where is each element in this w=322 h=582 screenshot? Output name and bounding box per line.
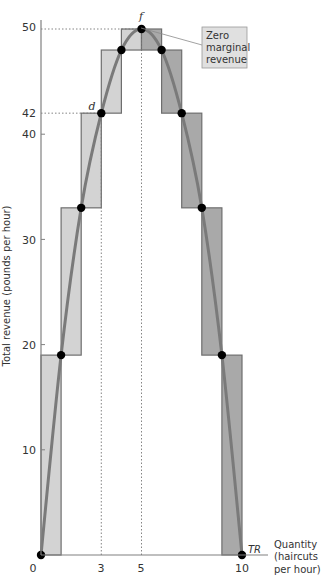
y-tick-50: 50 [22,21,36,34]
x-axis-title-line3: per hour) [274,564,321,575]
y-axis-title: Total revenue (pounds per hour) [1,205,12,367]
data-point [218,351,226,359]
data-point [157,46,165,54]
data-point [198,204,206,212]
data-point [178,109,186,117]
tr-curve-label: TR [248,544,261,555]
y-tick-20: 20 [22,339,36,352]
x-axis-title-line1: Quantity [274,539,317,550]
data-point [77,204,85,212]
callout-line3: revenue [206,54,247,65]
y-tick-42: 42 [22,107,36,120]
y-tick-40: 40 [22,128,36,141]
y-tick-30: 30 [22,234,36,247]
x-tick-0: 0 [30,562,37,575]
x-axis-title-line2: (haircuts [274,551,318,562]
x-tick-10: 10 [235,562,249,575]
x-tick-3: 3 [98,562,105,575]
x-tick-5: 5 [138,562,145,575]
total-revenue-chart: 10 20 30 40 42 50 0 3 5 10 Total revenue… [0,0,322,582]
data-point [97,109,105,117]
callout-line1: Zero [206,30,229,41]
y-tick-10: 10 [22,444,36,457]
data-point [57,351,65,359]
point-d-label: d [88,100,95,113]
data-point [117,46,125,54]
callout-line2: marginal [206,42,250,53]
point-f-label: f [138,10,145,23]
